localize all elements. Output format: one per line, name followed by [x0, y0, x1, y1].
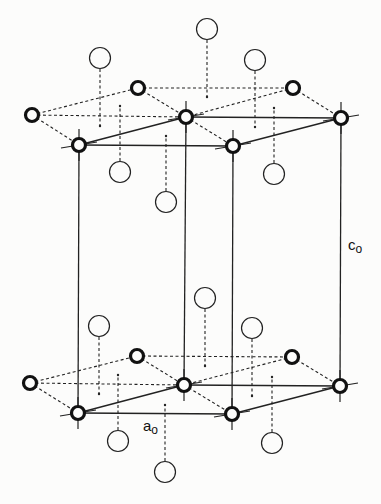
lattice-atom	[132, 82, 145, 95]
stem-end-dot	[273, 107, 275, 109]
cell-edge	[233, 118, 341, 146]
c-axis-edge	[340, 118, 341, 386]
stem-end-dot	[251, 395, 253, 397]
dashed-bond	[138, 88, 186, 117]
stem-end-dot	[206, 96, 208, 98]
dashed-bond	[186, 117, 233, 146]
lattice-atom	[334, 380, 347, 393]
cell-edge	[79, 145, 233, 146]
stem-end-dot	[271, 376, 273, 378]
stem-end-dot	[164, 404, 166, 406]
lattice-atom	[73, 139, 86, 152]
stem-end-dot	[165, 135, 167, 137]
lattice-atom	[72, 407, 85, 420]
cell-edge	[232, 386, 340, 414]
c-axis-edge	[78, 145, 79, 413]
c-axis-label: co	[348, 236, 362, 256]
lattice-atom	[227, 140, 240, 153]
dashed-bond	[137, 356, 184, 385]
dashed-bond	[30, 383, 184, 385]
interstitial-atom	[156, 192, 177, 213]
interstitial-atom	[242, 318, 263, 339]
cell-edge	[78, 413, 232, 414]
dashed-bond	[32, 115, 79, 145]
dashed-bond	[184, 385, 232, 414]
interstitial-atom	[264, 164, 285, 185]
stem-end-dot	[119, 105, 121, 107]
lattice-atom	[180, 111, 193, 124]
cell-edge	[184, 385, 340, 386]
dashed-bond	[32, 88, 138, 115]
lattice-atom	[26, 109, 39, 122]
interstitial-atom	[197, 19, 218, 40]
dashed-bond	[292, 357, 340, 386]
interstitial-atom	[245, 50, 266, 71]
interstitial-atom	[89, 316, 110, 337]
dashed-bond	[137, 356, 292, 357]
lattice-atom	[131, 350, 144, 363]
lattice-atom	[287, 82, 300, 95]
lattice-atom	[178, 379, 191, 392]
interstitial-atom	[155, 462, 176, 483]
interstitial-atom	[195, 288, 216, 309]
dashed-bond	[32, 115, 186, 117]
dashed-bond	[184, 357, 292, 385]
lattice-atom	[286, 351, 299, 364]
lattice-atom	[226, 408, 239, 421]
dashed-bond	[186, 88, 293, 117]
interstitial-atom	[110, 162, 131, 183]
stem-end-dot	[254, 126, 256, 128]
a-axis-label: ao	[143, 417, 158, 437]
stem-end-dot	[99, 125, 101, 127]
cell-edge	[186, 117, 341, 118]
c-axis-edge	[232, 146, 233, 414]
interstitial-atom	[108, 431, 129, 452]
cell-edge	[78, 385, 184, 413]
lattice-atom	[335, 112, 348, 125]
c-axis-edge	[184, 117, 186, 385]
stem-end-dot	[204, 365, 206, 367]
crystal-structure-diagram	[0, 0, 381, 504]
lattice-atom	[24, 377, 37, 390]
cell-edge	[79, 117, 186, 145]
dashed-bond	[30, 356, 137, 383]
interstitial-atom	[90, 48, 111, 69]
interstitial-atom	[262, 433, 283, 454]
dashed-bond	[30, 383, 78, 413]
stem-end-dot	[117, 374, 119, 376]
stem-end-dot	[98, 393, 100, 395]
dashed-bond	[293, 88, 341, 118]
